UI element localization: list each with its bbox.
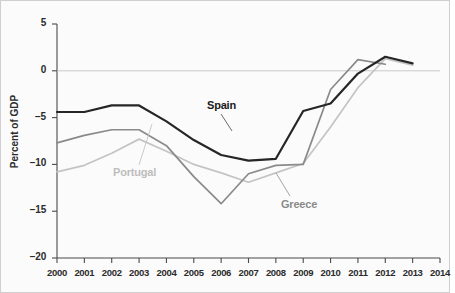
series-line-greece <box>57 60 385 204</box>
series-line-portugal <box>57 59 413 183</box>
series-label-spain: Spain <box>207 99 236 111</box>
leader-line <box>276 173 290 196</box>
series-label-greece: Greece <box>281 198 317 210</box>
series-lines-group <box>57 57 413 204</box>
series-label-portugal: Portugal <box>113 166 156 178</box>
annotation-leader-lines <box>139 114 290 196</box>
leader-line <box>221 114 232 131</box>
